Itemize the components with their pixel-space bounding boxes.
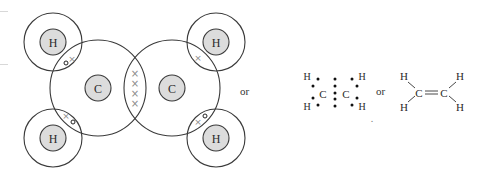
svg-text:×: × [194,117,202,127]
svg-text:×: × [68,54,76,64]
ch-top-right-pair: × [194,53,202,63]
svg-text:H: H [400,101,408,113]
svg-text:H: H [49,132,58,146]
svg-text:C: C [94,82,102,96]
footnote-mark: . [371,113,374,124]
structural-formula: H H H H C C [400,70,464,113]
cc-shared-electrons: × × × × [131,68,139,109]
svg-text:C: C [415,87,422,99]
svg-text:H: H [358,101,365,112]
svg-text:C: C [319,88,326,100]
h-bottom-left-nucleus: H [40,125,66,151]
h-top-left-nucleus: H [40,29,66,55]
svg-text:×: × [62,111,70,121]
h-top-right-nucleus: H [203,29,229,55]
or-separator-1: or [240,85,249,97]
electron-dot-structure: H H H H C C [303,71,365,112]
svg-text:C: C [168,82,176,96]
carbon-right-nucleus: C [159,75,185,101]
svg-text:H: H [456,70,464,82]
h-bottom-right-nucleus: H [203,125,229,151]
svg-text:×: × [131,98,139,109]
svg-text:H: H [456,101,464,113]
svg-text:H: H [303,71,310,82]
svg-text:H: H [212,132,221,146]
svg-text:H: H [400,70,408,82]
ch-top-left-pair: × [64,54,76,65]
svg-text:×: × [194,53,202,63]
or-separator-2: or [376,85,385,97]
svg-text:C: C [440,87,447,99]
svg-text:H: H [358,71,365,82]
ethene-bonding-figure: C C H H H H × × × × × [0,0,485,176]
ch-bottom-right-pair: × [194,114,207,127]
carbon-left-nucleus: C [85,75,111,101]
svg-text:H: H [49,36,58,50]
svg-text:H: H [303,101,310,112]
svg-text:C: C [342,88,349,100]
svg-text:H: H [212,36,221,50]
